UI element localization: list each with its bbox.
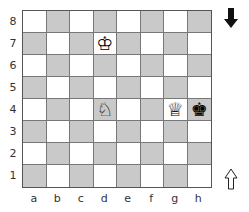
square-h4[interactable]: ♚ — [188, 99, 212, 121]
square-c2[interactable] — [70, 143, 94, 165]
square-a6[interactable] — [23, 55, 47, 77]
square-d3[interactable] — [94, 121, 118, 143]
square-g5[interactable] — [164, 77, 188, 99]
black-down-arrow-icon — [224, 8, 238, 28]
square-c5[interactable] — [70, 77, 94, 99]
square-b8[interactable] — [47, 11, 71, 33]
square-c3[interactable] — [70, 121, 94, 143]
square-c6[interactable] — [70, 55, 94, 77]
square-e5[interactable] — [117, 77, 141, 99]
square-f2[interactable] — [141, 143, 165, 165]
square-c7[interactable] — [70, 33, 94, 55]
square-d4[interactable]: ♘ — [94, 99, 118, 121]
square-b3[interactable] — [47, 121, 71, 143]
square-c8[interactable] — [70, 11, 94, 33]
square-h8[interactable] — [188, 11, 212, 33]
file-label-d: d — [93, 192, 117, 205]
file-label-a: a — [22, 192, 46, 205]
square-c1[interactable] — [70, 165, 94, 187]
square-b4[interactable] — [47, 99, 71, 121]
square-a1[interactable] — [23, 165, 47, 187]
square-e3[interactable] — [117, 121, 141, 143]
file-label-b: b — [46, 192, 70, 205]
square-f5[interactable] — [141, 77, 165, 99]
rank-label-3: 3 — [8, 125, 18, 138]
square-b1[interactable] — [47, 165, 71, 187]
square-d1[interactable] — [94, 165, 118, 187]
square-g3[interactable] — [164, 121, 188, 143]
file-label-f: f — [140, 192, 164, 205]
square-g1[interactable] — [164, 165, 188, 187]
square-f8[interactable] — [141, 11, 165, 33]
square-g8[interactable] — [164, 11, 188, 33]
white-queen-icon[interactable]: ♕ — [167, 100, 184, 119]
chess-board[interactable]: ♔♘♕♚ — [22, 10, 212, 188]
square-e4[interactable] — [117, 99, 141, 121]
square-h3[interactable] — [188, 121, 212, 143]
file-label-c: c — [69, 192, 93, 205]
square-a5[interactable] — [23, 77, 47, 99]
square-f6[interactable] — [141, 55, 165, 77]
black-king-icon[interactable]: ♚ — [191, 100, 208, 119]
square-d6[interactable] — [94, 55, 118, 77]
square-e7[interactable] — [117, 33, 141, 55]
rank-label-5: 5 — [8, 81, 18, 94]
square-g6[interactable] — [164, 55, 188, 77]
square-a8[interactable] — [23, 11, 47, 33]
square-h6[interactable] — [188, 55, 212, 77]
file-label-e: e — [116, 192, 140, 205]
rank-label-8: 8 — [8, 15, 18, 28]
square-f1[interactable] — [141, 165, 165, 187]
square-f4[interactable] — [141, 99, 165, 121]
square-h2[interactable] — [188, 143, 212, 165]
file-label-g: g — [163, 192, 187, 205]
square-a3[interactable] — [23, 121, 47, 143]
square-d8[interactable] — [94, 11, 118, 33]
file-label-h: h — [187, 192, 211, 205]
white-knight-icon[interactable]: ♘ — [96, 100, 113, 119]
square-h1[interactable] — [188, 165, 212, 187]
rank-label-6: 6 — [8, 59, 18, 72]
square-b6[interactable] — [47, 55, 71, 77]
square-b2[interactable] — [47, 143, 71, 165]
square-g4[interactable]: ♕ — [164, 99, 188, 121]
square-h7[interactable] — [188, 33, 212, 55]
square-e8[interactable] — [117, 11, 141, 33]
square-a2[interactable] — [23, 143, 47, 165]
white-king-icon[interactable]: ♔ — [96, 34, 113, 53]
rank-label-1: 1 — [8, 169, 18, 182]
square-g7[interactable] — [164, 33, 188, 55]
square-e6[interactable] — [117, 55, 141, 77]
rank-label-2: 2 — [8, 147, 18, 160]
square-b5[interactable] — [47, 77, 71, 99]
square-d7[interactable]: ♔ — [94, 33, 118, 55]
rank-label-4: 4 — [8, 103, 18, 116]
square-a4[interactable] — [23, 99, 47, 121]
square-d2[interactable] — [94, 143, 118, 165]
square-a7[interactable] — [23, 33, 47, 55]
square-d5[interactable] — [94, 77, 118, 99]
white-up-arrow-icon — [224, 168, 238, 190]
square-h5[interactable] — [188, 77, 212, 99]
rank-label-7: 7 — [8, 37, 18, 50]
square-f3[interactable] — [141, 121, 165, 143]
square-c4[interactable] — [70, 99, 94, 121]
square-e2[interactable] — [117, 143, 141, 165]
square-g2[interactable] — [164, 143, 188, 165]
square-f7[interactable] — [141, 33, 165, 55]
square-e1[interactable] — [117, 165, 141, 187]
square-b7[interactable] — [47, 33, 71, 55]
